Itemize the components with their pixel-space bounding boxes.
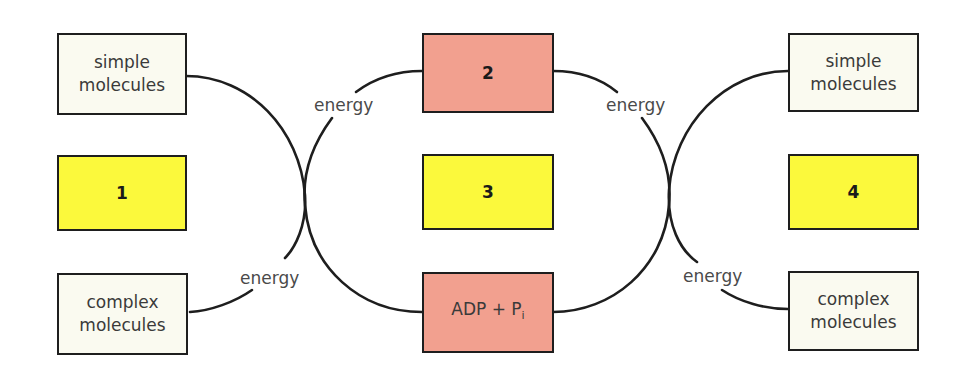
center-box-3: 3: [422, 154, 554, 230]
box-4-number: 4: [848, 181, 860, 204]
curve-left-box2-to-energy: [356, 71, 422, 92]
left-simple-line1: simple: [79, 51, 165, 74]
left-complex-line2: molecules: [79, 314, 165, 337]
right-simple-line2: molecules: [810, 73, 896, 96]
box-1-number: 1: [116, 182, 128, 205]
energy-coupling-diagram: simple molecules 1 complex molecules 2 3…: [0, 0, 967, 376]
energy-label-left-top: energy: [314, 95, 373, 115]
left-simple-molecules-box: simple molecules: [57, 33, 187, 115]
curve-left-simple-to-complex: [186, 76, 305, 258]
adp-pi-label: ADP + Pi: [451, 298, 524, 327]
curve-right-energy-to-adp: [553, 118, 670, 312]
right-complex-molecules-box: complex molecules: [788, 271, 919, 351]
right-simple-line1: simple: [810, 50, 896, 73]
center-box-2: 2: [422, 33, 554, 113]
adp-pi-box: ADP + Pi: [422, 272, 554, 353]
energy-label-right-top: energy: [606, 95, 665, 115]
left-complex-line1: complex: [79, 291, 165, 314]
energy-label-left-bottom: energy: [240, 268, 299, 288]
curve-left-energy-to-complex: [190, 290, 252, 312]
right-complex-line1: complex: [810, 288, 896, 311]
left-complex-molecules-box: complex molecules: [57, 273, 188, 355]
right-complex-line2: molecules: [810, 311, 896, 334]
curve-right-energy-to-complex: [722, 290, 788, 309]
box-2-number: 2: [482, 62, 494, 85]
left-simple-line2: molecules: [79, 74, 165, 97]
curve-left-energy-to-adp: [304, 118, 422, 312]
curve-right-simple-to-energy: [669, 71, 788, 262]
right-box-4: 4: [788, 154, 919, 230]
box-3-number: 3: [482, 181, 494, 204]
energy-label-right-bottom: energy: [683, 266, 742, 286]
right-simple-molecules-box: simple molecules: [788, 33, 919, 112]
left-box-1: 1: [57, 155, 187, 231]
curve-right-box2-to-energy: [553, 71, 617, 92]
